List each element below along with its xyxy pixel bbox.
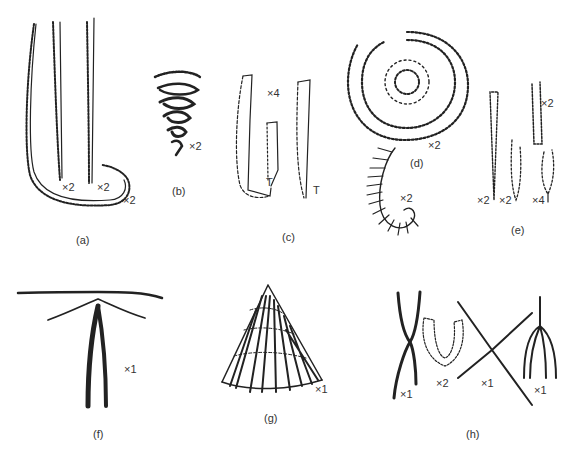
panel-a-mag-2: ×2 xyxy=(97,181,110,193)
panel-h-mag-4: ×1 xyxy=(534,384,547,396)
panel-f-drawing xyxy=(18,292,162,406)
panel-e-mag-1: ×2 xyxy=(477,194,490,206)
panel-c-marker-1: T xyxy=(266,176,273,188)
panel-f-caption: (f) xyxy=(93,428,103,440)
panel-h-caption: (h) xyxy=(466,428,479,440)
panel-d-drawing xyxy=(348,32,468,235)
panel-h-mag-1: ×1 xyxy=(400,388,413,400)
panel-e-mag-3: ×2 xyxy=(541,97,554,109)
panel-e-caption: (e) xyxy=(511,224,524,236)
panel-d-caption: (d) xyxy=(410,157,423,169)
panel-c-marker-2: T xyxy=(313,184,320,196)
panel-b-caption: (b) xyxy=(172,185,185,197)
panel-h-mag-2: ×2 xyxy=(436,377,449,389)
panel-a-caption: (a) xyxy=(76,234,89,246)
panel-f-mag: ×1 xyxy=(124,363,137,375)
panel-e-mag-4: ×4 xyxy=(532,194,545,206)
panel-h-mag-3: ×1 xyxy=(481,377,494,389)
panel-d-mag-2: ×2 xyxy=(400,192,413,204)
panel-c-caption: (c) xyxy=(282,231,295,243)
panel-e-mag-2: ×2 xyxy=(499,194,512,206)
panel-b-mag: ×2 xyxy=(189,140,202,152)
panel-a-drawing xyxy=(27,18,130,206)
panel-d-mag-1: ×2 xyxy=(428,139,441,151)
panel-a-mag-3: ×2 xyxy=(123,194,136,206)
graptolite-figure: ×2 ×2 ×2 (a) ×2 (b) ×4 T T (c) ×2 (d) ×2… xyxy=(0,0,569,452)
panel-g-mag: ×1 xyxy=(315,383,328,395)
panel-h-drawing xyxy=(394,292,556,405)
panel-a-mag-1: ×2 xyxy=(62,181,75,193)
panel-g-caption: (g) xyxy=(264,412,277,424)
panel-g-drawing xyxy=(222,285,322,392)
panel-c-mag: ×4 xyxy=(267,87,280,99)
